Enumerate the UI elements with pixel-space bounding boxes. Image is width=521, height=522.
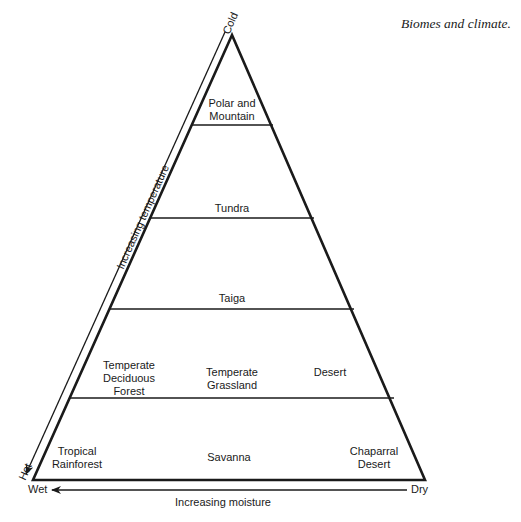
- moisture-dry-label: Dry: [411, 483, 428, 495]
- zone-polar-mountain: Polar and Mountain: [208, 97, 255, 123]
- moisture-wet-label: Wet: [28, 483, 47, 495]
- zone-taiga: Taiga: [219, 292, 245, 305]
- figure-caption: Biomes and climate.: [401, 16, 511, 32]
- zone-temperate-grassland: Temperate Grassland: [206, 366, 258, 392]
- moisture-axis-label: Increasing moisture: [175, 496, 271, 508]
- zone-chaparral-desert: Chaparral Desert: [350, 445, 398, 471]
- zone-tundra: Tundra: [215, 202, 249, 215]
- zone-savanna: Savanna: [207, 451, 250, 464]
- zone-desert: Desert: [314, 366, 346, 379]
- biome-triangle-diagram: [0, 0, 521, 522]
- zone-temperate-deciduous-forest: Temperate Deciduous Forest: [103, 359, 155, 398]
- zone-tropical-rainforest: Tropical Rainforest: [52, 445, 102, 471]
